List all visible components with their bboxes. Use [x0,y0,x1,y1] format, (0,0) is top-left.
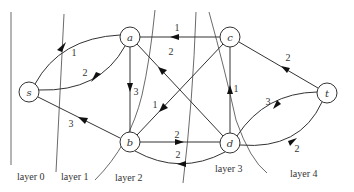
edge-label-s-a: 1 [72,47,77,58]
layer-1-label: layer 1 [61,171,89,182]
edge-s-a [35,35,120,84]
arrowhead-a-b [127,83,133,92]
node-b-label: b [127,137,133,148]
edge-label-t-c: 2 [286,52,291,63]
edges: 1 2 3 3 1 2 1 2 2 1 [35,22,322,168]
layered-graph-diagram: layer 0 layer 1 layer 2 layer 3 layer 4 … [0,0,354,192]
layer-3-label: layer 3 [215,163,243,174]
arrowhead-a-s [91,72,101,82]
arrowhead-b-s [78,117,88,124]
arrowhead-s-a [57,42,66,52]
layer-2-label: layer 2 [115,172,143,183]
node-a-label: a [127,32,133,43]
edge-label-a-s: 2 [83,67,88,78]
node-s: s [19,82,39,102]
node-c-label: c [227,32,233,43]
node-b: b [120,132,140,152]
edge-t-d [237,92,317,136]
node-t: t [317,83,337,103]
node-d-label: d [227,138,233,149]
edge-label-b-d: 2 [175,129,180,140]
node-a: a [120,27,140,47]
edge-d-t [240,102,322,145]
edge-label-b-s: 3 [69,118,74,129]
arrowhead-t-c [281,66,290,73]
arrowhead-d-b [177,161,186,167]
edge-label-c-b: 1 [153,99,158,110]
layer-1-boundary [56,14,64,172]
arrowhead-b-d [175,139,184,145]
edge-label-d-a: 2 [169,46,174,57]
arrowhead-d-a [158,67,167,75]
edge-label-d-b: 2 [176,149,181,160]
layer-0-label: layer 0 [17,171,45,182]
node-s-label: s [26,87,31,98]
layer-4-label: layer 4 [290,168,318,179]
node-c: c [220,27,240,47]
edge-label-d-c: 1 [234,83,239,94]
edge-label-d-t: 2 [295,143,300,154]
edge-label-c-a: 1 [175,22,180,33]
arrowhead-c-a [170,34,179,40]
edge-t-c [239,42,318,88]
edge-label-a-b: 3 [134,86,139,97]
layer-3-boundary [183,12,196,183]
node-d: d [220,133,240,153]
layer-labels: layer 0 layer 1 layer 2 layer 3 layer 4 [17,163,318,183]
edge-label-t-d: 3 [266,96,271,107]
